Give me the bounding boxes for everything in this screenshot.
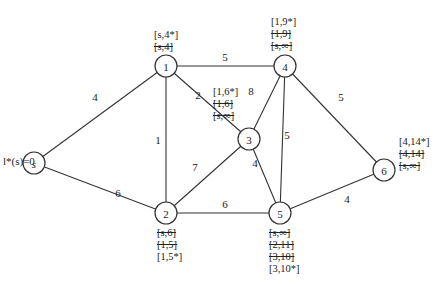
edge-s-2: [34, 163, 166, 213]
node-3-struck-label: [s,∞]: [213, 110, 238, 122]
node-1-struck-label: [s,4]: [154, 41, 178, 53]
node-2-struck-label: [s,6]: [157, 227, 182, 239]
edge-weight-3-5: 4: [252, 157, 258, 169]
node-2: 2: [155, 202, 177, 224]
edges: [34, 66, 384, 213]
nodes: s123456: [23, 55, 395, 224]
edge-weight-3-4: 8: [248, 85, 254, 97]
node-6-struck-label: [4,14]: [399, 148, 430, 160]
node-1-labels: [s,4*] [s,4]: [154, 29, 178, 53]
edge-weight-4-5: 5: [284, 129, 290, 141]
node-2-struck-label: [1,5]: [157, 239, 182, 251]
node-4: 4: [274, 55, 296, 77]
node-6-final-label: [4,14*]: [399, 136, 430, 148]
edge-3-4: [249, 66, 285, 139]
node-3-final-label: [1,6*]: [213, 86, 238, 98]
node-6-labels: [4,14*] [4,14] [s,∞]: [399, 136, 430, 172]
node-5-labels: [s,∞] [2,11] [3,10] [3,10*]: [269, 227, 300, 275]
edge-4-6: [285, 66, 384, 170]
node-5-final-label: [3,10*]: [269, 263, 300, 275]
edge-weight-s-1: 4: [92, 91, 98, 103]
edge-3-5: [249, 139, 280, 213]
edge-5-6: [280, 170, 384, 213]
edge-weight-2-3: 7: [192, 161, 198, 173]
node-3: 3: [238, 128, 260, 150]
node-4-struck-label: [s,∞]: [271, 40, 296, 52]
node-6-struck-label: [s,∞]: [399, 160, 430, 172]
edge-weight-5-6: 4: [344, 193, 350, 205]
edge-weight-1-2: 1: [155, 134, 161, 146]
node-4-final-label: [1,9*]: [271, 16, 296, 28]
node-label: 4: [282, 61, 288, 73]
node-5: 5: [269, 202, 291, 224]
edge-weights: 465128745654: [92, 51, 350, 210]
initial-label: l*(s)=0: [3, 155, 35, 167]
node-2-final-label: [1,5*]: [157, 251, 182, 263]
edge-weight-1-4: 5: [222, 51, 228, 63]
node-4-labels: [1,9*] [1,9] [s,∞]: [271, 16, 296, 52]
edge-weight-2-5: 6: [222, 198, 228, 210]
node-2-labels: [s,6] [1,5] [1,5*]: [157, 227, 182, 263]
node-1: 1: [155, 55, 177, 77]
edge-weight-s-2: 6: [115, 187, 121, 199]
node-label: 1: [163, 61, 169, 73]
node-5-struck-label: [2,11]: [269, 239, 300, 251]
initial-label-text: l*(s)=0: [3, 155, 35, 167]
node-6: 6: [373, 159, 395, 181]
edge-2-3: [166, 139, 249, 213]
node-1-final-label: [s,4*]: [154, 29, 178, 41]
node-label: 2: [163, 208, 169, 220]
node-3-struck-label: [1,6]: [213, 98, 238, 110]
network-graph: 465128745654 s123456: [0, 0, 446, 284]
node-4-struck-label: [1,9]: [271, 28, 296, 40]
node-label: 5: [277, 208, 283, 220]
node-3-labels: [1,6*] [1,6] [s,∞]: [213, 86, 238, 122]
node-label: 6: [381, 165, 387, 177]
edge-weight-4-6: 5: [338, 91, 344, 103]
node-5-struck-label: [s,∞]: [269, 227, 300, 239]
edge-s-1: [34, 66, 166, 163]
edge-weight-1-3: 2: [195, 89, 201, 101]
node-label: 3: [246, 134, 252, 146]
node-5-struck-label: [3,10]: [269, 251, 300, 263]
